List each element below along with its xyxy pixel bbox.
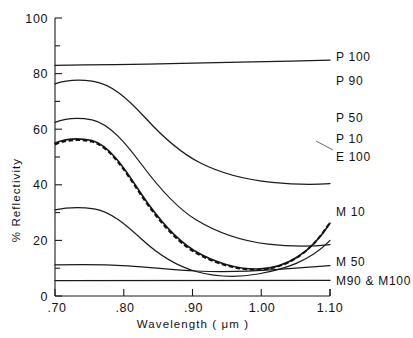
y-tick-label-60: 60 [33, 123, 48, 137]
series-label-p50: P 50 [336, 111, 363, 125]
curves-group [55, 60, 330, 281]
x-tick-label-080: .80 [115, 301, 134, 315]
curve-e100 [55, 140, 330, 270]
x-tick-label-100: 1.00 [249, 301, 276, 315]
x-tick-labels: .70 .80 .90 1.00 1.10 [47, 301, 343, 315]
series-label-m10: M 10 [336, 205, 365, 219]
x-tick-label-090: .90 [184, 301, 203, 315]
series-label-p90: P 90 [336, 74, 363, 88]
series-label-e100: E 100 [336, 150, 371, 164]
x-axis-title: Wavelength ( μm ) [137, 318, 249, 330]
curve-p100 [55, 60, 330, 65]
y-tick-label-80: 80 [33, 67, 48, 81]
series-label-p100: P 100 [336, 50, 371, 64]
series-labels-group: P 100 P 90 P 50 P 10 E 100 M 10 M 50 M90… [336, 50, 411, 288]
curve-p50 [55, 118, 330, 246]
y-tick-label-40: 40 [33, 178, 48, 192]
y-tick-labels: 100 80 60 40 20 0 [25, 12, 48, 304]
series-label-m90-m100: M90 & M100 [336, 274, 411, 288]
axes-group [55, 18, 330, 296]
series-label-p10: P 10 [336, 132, 363, 146]
e100-leader-line [316, 141, 333, 150]
reflectivity-chart-figure: 100 80 60 40 20 0 .70 .80 .90 1.00 1.10 … [0, 0, 413, 338]
chart-canvas: 100 80 60 40 20 0 .70 .80 .90 1.00 1.10 … [0, 0, 413, 338]
series-label-m50: M 50 [336, 255, 365, 269]
x-tick-label-070: .70 [47, 301, 66, 315]
y-tick-label-100: 100 [25, 12, 48, 26]
curve-p90 [55, 80, 330, 184]
y-tick-label-20: 20 [33, 234, 48, 248]
y-axis-title: % Reflectivity [10, 158, 22, 242]
x-ticks-group [55, 289, 330, 296]
x-tick-label-110: 1.10 [317, 301, 344, 315]
